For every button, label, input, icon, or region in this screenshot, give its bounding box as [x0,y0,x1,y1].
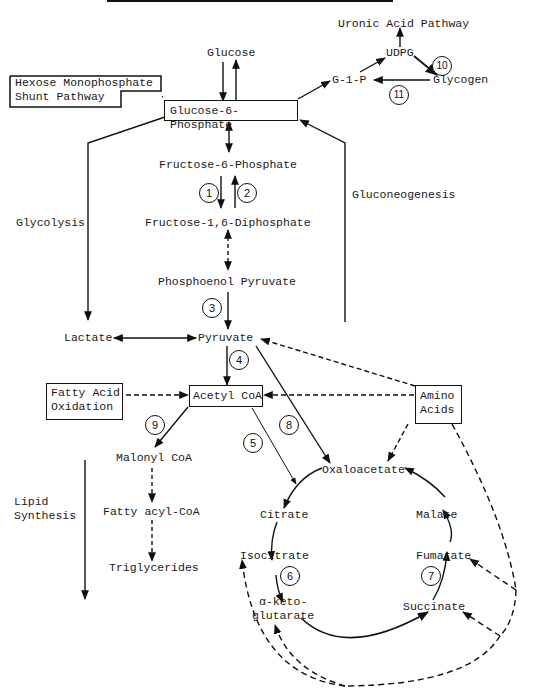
edge-amino-to-oxaloacetate [388,424,408,461]
step-10-badge: 10 [432,56,452,76]
label-lipid-line1: Lipid [14,495,49,509]
edge-amino-to-fumarate [470,559,516,590]
label-glycolysis: Glycolysis [16,216,85,230]
step-11-badge: 11 [389,85,409,105]
fatty-acid-oxidation-line1: Fatty Acid [51,386,122,400]
node-alpha-ketoglutarate-line2: glutarate [252,609,314,623]
step-6-badge: 6 [280,566,300,586]
amino-acids-line2: Acids [420,403,461,417]
step-9-badge: 9 [145,415,165,435]
node-fructose-16-diphosphate: Fructose-1,6-Diphosphate [145,216,311,230]
label-gluconeogenesis: Gluconeogenesis [352,188,456,202]
edge-step8 [256,346,330,463]
node-fatty-acyl-coa: Fatty acyl-CoA [103,505,200,519]
node-fatty-acid-oxidation: Fatty Acid Oxidation [46,383,123,420]
amino-acids-line1: Amino [420,389,461,403]
node-citrate: Citrate [260,508,308,522]
node-alpha-ketoglutarate-line1: α-keto- [259,595,307,609]
step-3-badge: 3 [202,298,222,318]
node-glucose: Glucose [207,46,255,60]
node-udpg: UDPG [386,46,414,60]
node-succinate: Succinate [403,600,465,614]
node-pyruvate: Pyruvate [198,331,253,345]
node-uronic-acid-pathway: Uronic Acid Pathway [338,17,469,31]
node-fumarate: Fumarate [416,549,471,563]
node-isocitrate: Isocitrate [240,549,309,563]
node-lactate: Lactate [64,331,112,345]
step-1-badge: 1 [199,183,219,203]
edge-amino-loop-lower [500,590,516,636]
hmp-shunt-box: Hexose Monophosphate Shunt Pathway [9,74,162,108]
edge-g1p-to-udpg [360,58,385,72]
node-g1p: G-1-P [332,73,367,87]
edge-amino-to-akg [275,625,345,686]
edge-amino-to-pyruvate [261,339,415,386]
edge-akg-to-succinate [301,612,428,638]
step-4-badge: 4 [229,350,249,370]
node-phosphoenol-pyruvate: Phosphoenol Pyruvate [158,275,296,289]
hmp-shunt-line2: Shunt Pathway [15,90,162,104]
step-5-badge: 5 [243,433,263,453]
node-acetyl-coa: Acetyl CoA [189,385,263,407]
edge-g6p-to-g1p [298,81,330,99]
step-7-badge: 7 [421,566,441,586]
fatty-acid-oxidation-line2: Oxidation [51,400,122,414]
edge-amino-loop-bottom [345,636,500,686]
step-2-badge: 2 [237,183,257,203]
node-glucose-6-phosphate: Glucose-6-Phosphate [164,100,298,121]
edge-amino-to-succinate [463,612,500,636]
edge-malate-to-oxaloacetate [405,468,445,497]
node-malate: Malate [416,508,457,522]
hmp-shunt-line1: Hexose Monophosphate [15,76,162,90]
node-fructose-6-phosphate: Fructose-6-Phosphate [159,158,297,172]
node-malonyl-coa: Malonyl CoA [116,451,192,465]
label-lipid-line2: Synthesis [14,509,76,523]
node-amino-acids: Amino Acids [415,385,462,424]
node-oxaloacetate: Oxaloacetate [322,463,405,477]
step-8-badge: 8 [279,415,299,435]
node-triglycerides: Triglycerides [109,561,199,575]
edge-amino-loop-right [452,424,516,590]
